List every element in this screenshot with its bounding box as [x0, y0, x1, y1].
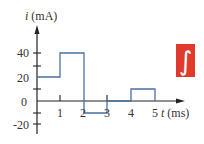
y-tick-label: 40	[17, 46, 29, 60]
x-tick-label: 5	[152, 106, 158, 120]
x-tick-label: 3	[104, 106, 110, 120]
y-axis-title: i (mA)	[25, 9, 57, 23]
x-axis-title: t (ms)	[161, 106, 189, 120]
x-tick-label: 1	[57, 106, 63, 120]
y-tick-label: 0	[21, 95, 27, 109]
y-tick-label: -20	[13, 118, 29, 132]
y-axis-arrow-icon	[35, 25, 40, 34]
x-axis-arrow-icon	[176, 99, 185, 104]
current-waveform-chart: 40 20 0 -20 1 2 3 4 5 i (mA) t (ms) ∫	[0, 0, 204, 144]
x-tick-label: 4	[128, 106, 134, 120]
integral-icon: ∫	[179, 46, 193, 76]
y-tick-label: 20	[17, 71, 29, 85]
current-waveform-line	[37, 53, 155, 113]
x-tick-label: 2	[80, 106, 86, 120]
